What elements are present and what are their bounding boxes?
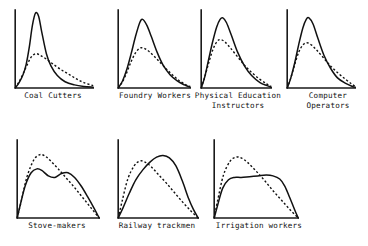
panel-physical-education-instructors [200, 10, 280, 94]
panel-stove-makers [16, 140, 108, 224]
curve-dashed-stove-makers [17, 154, 99, 218]
panel-irrigation-workers [213, 140, 307, 224]
panel-railway-trackmen [117, 140, 207, 224]
curve-solid-irrigation-workers [214, 175, 298, 218]
curve-solid-physical-education-instructors [201, 18, 271, 88]
panel-label-coal-cutters: Coal Cutters [0, 91, 108, 101]
curve-solid-stove-makers [17, 169, 99, 218]
curve-solid-foundry-workers [118, 19, 190, 88]
panel-label-irrigation-workers: Irrigation workers [198, 221, 320, 231]
curve-solid-coal-cutters [15, 13, 93, 88]
panel-label-railway-trackmen: Railway trackmen [100, 221, 214, 231]
panel-label-stove-makers: Stove-makers [4, 221, 110, 231]
curve-solid-railway-trackmen [118, 156, 198, 218]
panel-label-computer-operators: Computer Operators [290, 91, 366, 110]
panel-axes [15, 10, 93, 88]
panel-foundry-workers [117, 10, 199, 94]
curve-dashed-railway-trackmen [118, 161, 198, 218]
panel-coal-cutters [14, 10, 102, 94]
curve-solid-computer-operators [287, 17, 355, 88]
panel-label-physical-education-instructors: Physical Education Instructors [188, 91, 288, 110]
small-multiples-figure: Coal CuttersFoundry WorkersPhysical Educ… [0, 0, 368, 246]
panel-axes [118, 10, 190, 88]
panel-computer-operators [286, 10, 364, 94]
panel-axes [118, 140, 198, 218]
panel-axes [214, 140, 298, 218]
panel-axes [17, 140, 99, 218]
